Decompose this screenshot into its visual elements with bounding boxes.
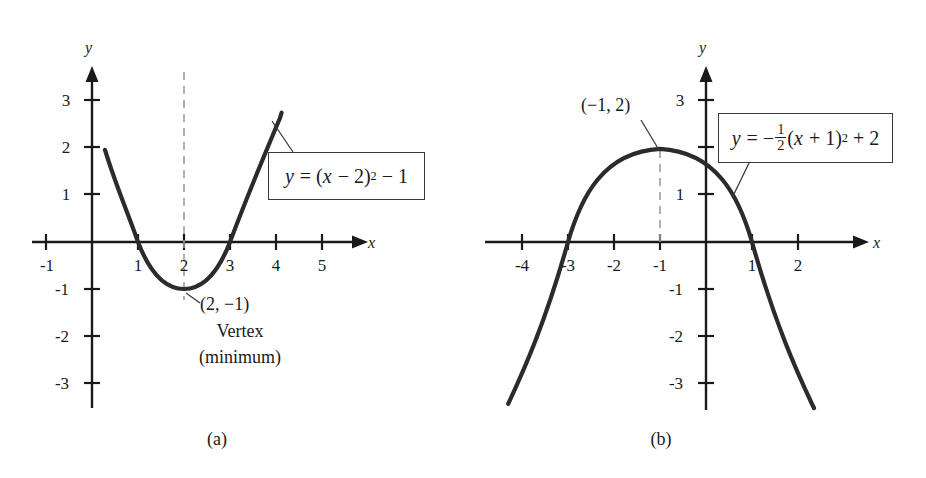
y-tick-label-b-1: 1 xyxy=(670,186,690,203)
x-tick-label-a-0: -1 xyxy=(36,257,58,274)
y-tick-label-b-3: -2 xyxy=(662,328,690,345)
eq-a-minus: − xyxy=(338,165,349,188)
panel-a-quadratic-minimum: x y -1 1 2 3 4 5 3 2 1 -1 -2 -3 (2, −1) … xyxy=(0,0,463,478)
eq-a-h: 2 xyxy=(354,165,364,188)
y-tick-label-a-5: -3 xyxy=(48,375,76,392)
eq-b-plus: + xyxy=(809,127,820,150)
x-tick-label-b-5: 2 xyxy=(789,257,807,274)
parabola-curve-b xyxy=(508,149,814,408)
eq-b-fraction: 12 xyxy=(775,122,786,152)
eq-a-minus2: − xyxy=(382,165,393,188)
eq-b-frac-numerator: 1 xyxy=(775,122,786,137)
eq-a-close-paren: ) xyxy=(364,165,371,188)
panel-caption-a: (a) xyxy=(197,430,237,448)
x-tick-label-b-2: -2 xyxy=(602,257,626,274)
y-tick-label-a-2: 1 xyxy=(56,186,76,203)
vertex-coordinate-label-a: (2, −1) xyxy=(200,295,249,313)
x-tick-label-b-1: -3 xyxy=(556,257,580,274)
callout-leader-a xyxy=(272,121,293,152)
eq-a-lhs: y xyxy=(285,165,295,188)
eq-b-close-paren: ) xyxy=(835,127,842,150)
panel-caption-b: (b) xyxy=(641,430,681,448)
x-axis-a xyxy=(32,236,368,249)
y-tick-label-b-4: -3 xyxy=(662,375,690,392)
y-axis-a xyxy=(86,66,99,408)
y-tick-label-a-4: -2 xyxy=(48,328,76,345)
eq-a-k: 1 xyxy=(398,165,408,188)
eq-b-k: 2 xyxy=(869,127,879,150)
y-axis-b xyxy=(700,66,713,410)
x-tick-label-b-3: -1 xyxy=(648,257,672,274)
panel-b-plot xyxy=(463,0,926,478)
x-axis-label-b: x xyxy=(873,235,880,251)
y-tick-label-b-2: -1 xyxy=(662,281,690,298)
callout-leader-b xyxy=(733,159,751,196)
eq-a-equals: = xyxy=(300,165,311,188)
y-tick-label-a-0: 3 xyxy=(56,92,76,109)
vertex-note-line2-a: (minimum) xyxy=(175,348,305,366)
vertex-note-line1-a: Vertex xyxy=(185,322,295,340)
eq-b-plus2: + xyxy=(853,127,864,150)
y-tick-label-a-1: 2 xyxy=(56,139,76,156)
y-axis-label-b: y xyxy=(699,40,706,56)
eq-b-neg: − xyxy=(763,127,774,150)
x-tick-label-a-1: 1 xyxy=(129,257,147,274)
eq-b-h: 1 xyxy=(825,127,835,150)
vertex-coordinate-label-b: (−1, 2) xyxy=(581,96,630,114)
equation-text-a: y=(x−2)2−1 xyxy=(285,165,408,188)
y-tick-label-a-3: -1 xyxy=(48,281,76,298)
x-tick-label-a-2: 2 xyxy=(175,257,193,274)
vertex-leader-b xyxy=(641,120,659,150)
x-tick-label-b-0: -4 xyxy=(510,257,534,274)
y-axis-label-a: y xyxy=(85,40,92,56)
x-tick-label-a-3: 3 xyxy=(221,257,239,274)
eq-b-lhs: y xyxy=(732,127,742,150)
vertex-leader-a xyxy=(186,293,200,303)
x-tick-label-a-4: 4 xyxy=(267,257,285,274)
eq-a-open-paren: ( xyxy=(316,165,323,188)
panel-a-plot xyxy=(0,0,463,478)
eq-b-equals: = xyxy=(747,127,758,150)
eq-b-open-paren: ( xyxy=(787,127,794,150)
y-tick-label-b-0: 3 xyxy=(670,92,690,109)
x-tick-label-b-4: 1 xyxy=(743,257,761,274)
x-axis-b xyxy=(485,236,869,249)
eq-a-var: x xyxy=(323,165,333,188)
equation-text-b: y=−12(x+1)2+2 xyxy=(732,123,880,153)
eq-b-frac-denominator: 2 xyxy=(775,137,786,153)
equation-callout-a: y=(x−2)2−1 xyxy=(268,152,425,200)
eq-b-var: x xyxy=(794,127,804,150)
x-axis-label-a: x xyxy=(368,235,375,251)
equation-callout-b: y=−12(x+1)2+2 xyxy=(718,113,893,163)
x-tick-label-a-5: 5 xyxy=(313,257,331,274)
figure-root: x y -1 1 2 3 4 5 3 2 1 -1 -2 -3 (2, −1) … xyxy=(0,0,926,478)
panel-b-quadratic-maximum: x y -4 -3 -2 -1 1 2 3 1 -1 -2 -3 (−1, 2)… xyxy=(463,0,926,478)
